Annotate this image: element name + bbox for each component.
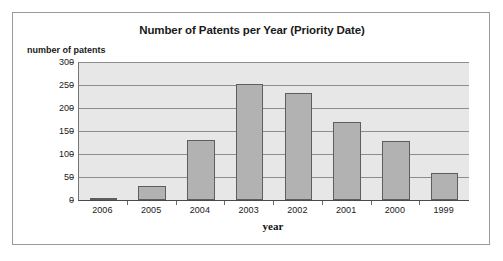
x-tick-label-1999: 1999 [419,205,468,215]
y-tick-mark-200 [70,108,74,109]
y-tick-mark-50 [70,177,74,178]
bar-2001 [333,122,360,200]
bar-slot-2000 [372,62,421,200]
x-tick-label-2004: 2004 [176,205,225,215]
bar-slot-2003 [225,62,274,200]
x-tick-label-2001: 2001 [322,205,371,215]
bar-2000 [382,141,409,200]
figure-frame: Number of Patents per Year (Priority Dat… [12,12,490,245]
bar-1999 [431,173,458,200]
bar-slot-1999 [420,62,469,200]
y-axis-title: number of patents [27,45,106,55]
bar-slot-2004 [177,62,226,200]
y-tick-mark-250 [70,85,74,86]
bar-slot-2001 [323,62,372,200]
x-tick-label-2003: 2003 [224,205,273,215]
y-tick-mark-0 [70,200,74,201]
y-tick-label-200: 200 [28,103,74,113]
bar-2004 [187,140,214,200]
y-tick-label-50: 50 [28,172,74,182]
x-axis-title: year [78,220,468,232]
y-axis-labels: 050100150200250300 [13,62,74,200]
plot-area [78,62,469,201]
bar-slot-2006 [79,62,128,200]
bar-2002 [285,93,312,200]
bar-series [79,62,469,200]
y-tick-mark-150 [70,131,74,132]
x-tick-label-2006: 2006 [78,205,127,215]
y-tick-label-0: 0 [28,195,74,205]
bar-slot-2002 [274,62,323,200]
y-tick-label-250: 250 [28,80,74,90]
x-tick-label-2002: 2002 [273,205,322,215]
bar-2003 [236,84,263,200]
x-axis-labels: 20062005200420032002200120001999 [78,205,468,215]
y-tick-mark-100 [70,154,74,155]
chart-title: Number of Patents per Year (Priority Dat… [13,24,491,36]
y-tick-label-100: 100 [28,149,74,159]
bar-slot-2005 [128,62,177,200]
y-tick-label-300: 300 [28,57,74,67]
y-tick-label-150: 150 [28,126,74,136]
x-tick-label-2000: 2000 [371,205,420,215]
y-tick-mark-300 [70,62,74,63]
bar-2005 [138,186,165,200]
figure-page: Number of Patents per Year (Priority Dat… [0,0,503,261]
bar-2006 [90,198,117,200]
x-tick-label-2005: 2005 [127,205,176,215]
